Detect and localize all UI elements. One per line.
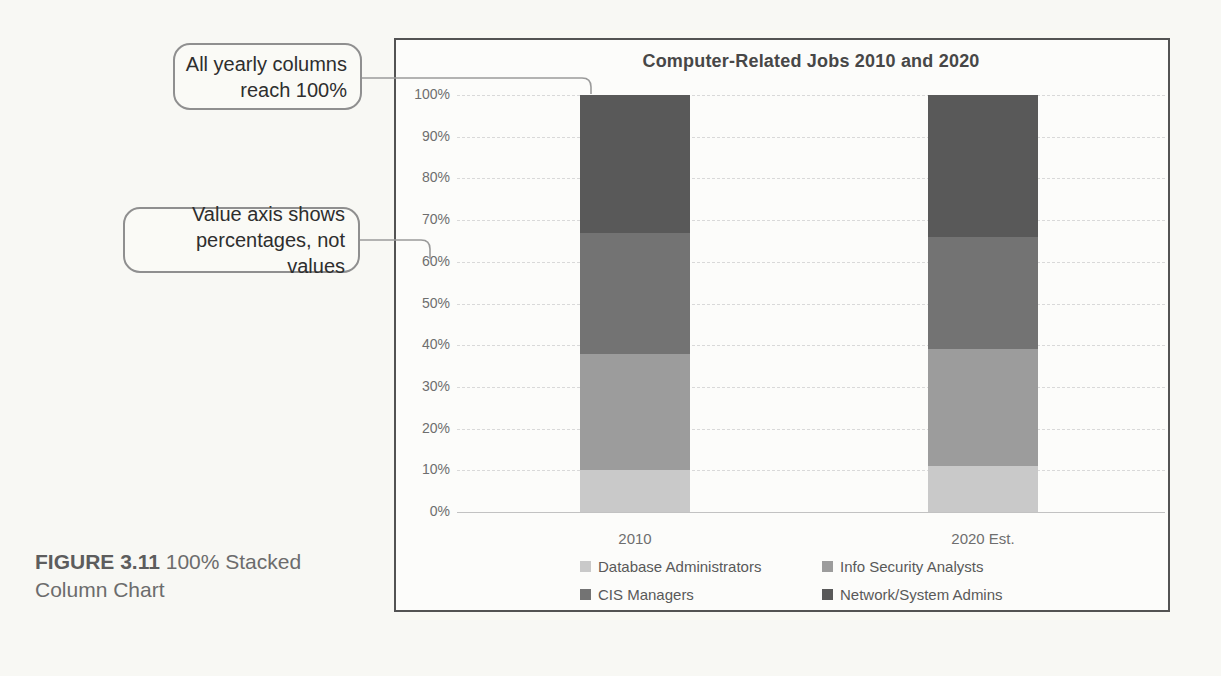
x-axis-category-label: 2020 Est. xyxy=(951,530,1014,547)
legend-swatch-icon xyxy=(580,561,591,572)
chart-frame: Computer-Related Jobs 2010 and 2020 0%10… xyxy=(394,38,1170,612)
legend-item: Info Security Analysts xyxy=(822,558,1003,575)
y-axis-tick-label: 80% xyxy=(396,169,450,185)
bar-segment xyxy=(580,233,690,354)
y-axis-tick-label: 70% xyxy=(396,211,450,227)
bar-segment xyxy=(928,466,1038,512)
gridline xyxy=(457,178,1165,179)
bar-segment xyxy=(928,349,1038,466)
bar-segment xyxy=(580,470,690,512)
gridline xyxy=(457,304,1165,305)
legend-item: Database Administrators xyxy=(580,558,822,575)
gridline xyxy=(457,387,1165,388)
chart-title: Computer-Related Jobs 2010 and 2020 xyxy=(457,51,1165,72)
gridline xyxy=(457,345,1165,346)
y-axis-tick-label: 60% xyxy=(396,253,450,269)
callout-value-axis-percentages: Value axis shows percentages, not values xyxy=(123,207,360,273)
bar-segment xyxy=(928,95,1038,237)
x-axis: 20102020 Est. xyxy=(457,530,1165,550)
legend-item: Network/System Admins xyxy=(822,586,1003,603)
callout-text-line: All yearly columns xyxy=(183,51,347,77)
plot-area xyxy=(457,95,1165,512)
page: All yearly columns reach 100% Value axis… xyxy=(0,0,1221,676)
callout-text-line: reach 100% xyxy=(183,77,347,103)
y-axis-tick-label: 20% xyxy=(396,420,450,436)
legend-label: Network/System Admins xyxy=(840,586,1003,603)
gridline xyxy=(457,137,1165,138)
gridline xyxy=(457,95,1165,96)
gridline xyxy=(457,512,1165,513)
y-axis-tick-label: 0% xyxy=(396,503,450,519)
y-axis-tick-label: 50% xyxy=(396,295,450,311)
y-axis-tick-label: 10% xyxy=(396,461,450,477)
gridline xyxy=(457,470,1165,471)
callout-text-line: Value axis shows xyxy=(133,201,345,227)
legend-swatch-icon xyxy=(822,589,833,600)
legend-swatch-icon xyxy=(822,561,833,572)
gridline xyxy=(457,220,1165,221)
stacked-column-2010 xyxy=(580,95,690,512)
legend-label: CIS Managers xyxy=(598,586,694,603)
bar-segment xyxy=(580,95,690,233)
y-axis-tick-label: 90% xyxy=(396,128,450,144)
gridline xyxy=(457,429,1165,430)
legend-item: CIS Managers xyxy=(580,586,822,603)
legend-label: Info Security Analysts xyxy=(840,558,983,575)
legend-swatch-icon xyxy=(580,589,591,600)
y-axis-tick-label: 40% xyxy=(396,336,450,352)
x-axis-category-label: 2010 xyxy=(618,530,651,547)
callout-all-columns-reach-100: All yearly columns reach 100% xyxy=(173,43,362,110)
figure-caption: FIGURE 3.11 100% Stacked Column Chart xyxy=(35,548,353,604)
y-axis: 0%10%20%30%40%50%60%70%80%90%100% xyxy=(396,95,450,512)
bar-segment xyxy=(580,354,690,471)
legend-label: Database Administrators xyxy=(598,558,761,575)
stacked-column-2020-est- xyxy=(928,95,1038,512)
callout-text-line: percentages, not values xyxy=(133,227,345,279)
figure-caption-label: FIGURE 3.11 xyxy=(35,550,160,573)
y-axis-tick-label: 30% xyxy=(396,378,450,394)
gridline xyxy=(457,262,1165,263)
bar-segment xyxy=(928,237,1038,350)
chart-legend: Database AdministratorsInfo Security Ana… xyxy=(580,552,1003,608)
y-axis-tick-label: 100% xyxy=(396,86,450,102)
